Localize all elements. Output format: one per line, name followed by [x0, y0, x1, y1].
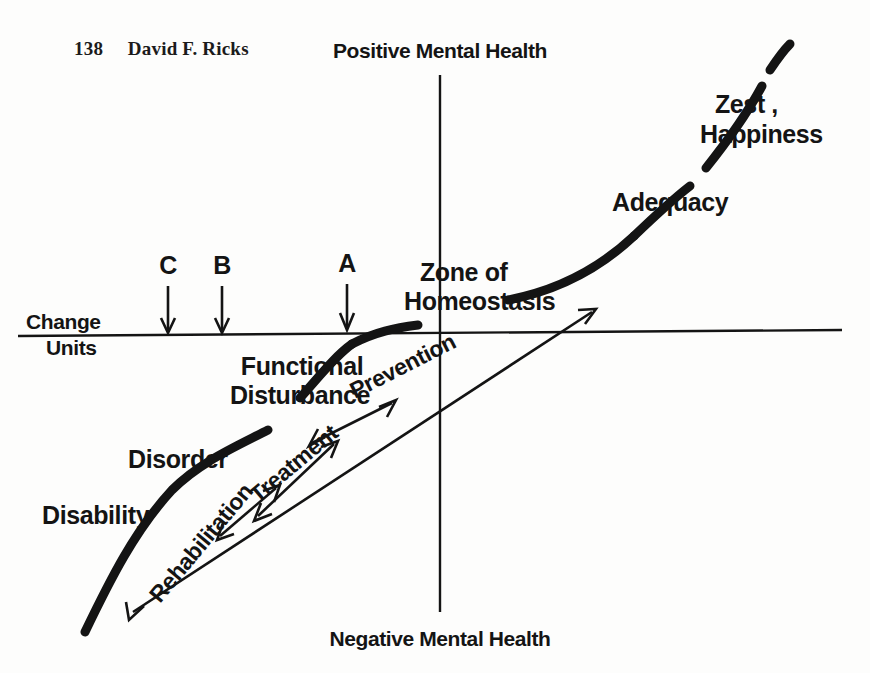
curve-segment-homeostasis-left: [352, 325, 418, 344]
marker-c: C: [159, 251, 177, 333]
disorder-label: Disorder: [128, 445, 228, 473]
adequacy-label: Adequacy: [612, 188, 729, 216]
marker-b-label: B: [213, 251, 231, 279]
curve-segment-zest: [770, 44, 790, 70]
change-units-label-line2: Units: [46, 336, 97, 359]
zone-of-homeostasis-label-line2: Homeostasis: [404, 287, 555, 315]
marker-a: A: [338, 249, 356, 330]
change-units-label-line1: Change: [26, 310, 101, 333]
positive-mental-health-label: Positive Mental Health: [333, 39, 547, 62]
marker-a-label: A: [338, 249, 356, 277]
zone-of-homeostasis-label-line1: Zone of: [420, 258, 509, 286]
horizontal-axis: [18, 330, 842, 336]
disability-label: Disability: [42, 501, 150, 529]
zest-label-line2: Happiness: [700, 120, 823, 148]
marker-b: B: [213, 251, 231, 333]
functional-disturbance-label-line1: Functional: [241, 352, 363, 380]
zest-label-line1: Zest ,: [715, 90, 778, 118]
mental-health-continuum-diagram: Positive Mental Health Negative Mental H…: [0, 0, 870, 673]
book-page: 138 David F. Ricks Positive Mental Healt…: [0, 0, 870, 673]
marker-c-label: C: [159, 251, 177, 279]
negative-mental-health-label: Negative Mental Health: [329, 627, 550, 650]
